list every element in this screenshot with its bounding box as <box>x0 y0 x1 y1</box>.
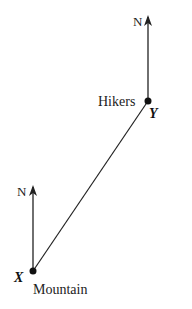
bearing-diagram: N N Hikers Y X Mountain <box>0 0 192 309</box>
north-label-x: N <box>17 184 27 199</box>
north-arrow-x: N <box>17 184 37 271</box>
mountain-caption: Mountain <box>33 282 87 297</box>
point-y-dot <box>145 98 152 105</box>
north-arrow-y: N <box>133 14 152 101</box>
point-x-dot <box>30 268 37 275</box>
point-y-label: Y <box>149 106 159 121</box>
hikers-caption: Hikers <box>98 94 135 109</box>
point-x-label: X <box>13 270 24 285</box>
bearing-line-xy <box>33 101 148 271</box>
north-label-y: N <box>133 14 143 29</box>
